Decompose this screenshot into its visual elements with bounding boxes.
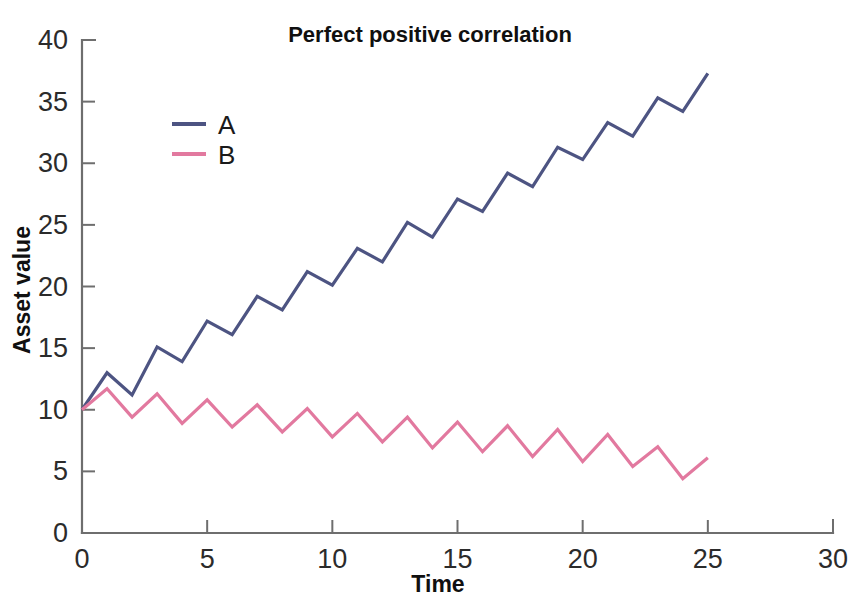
y-tick-label: 30 <box>38 148 68 178</box>
y-tick-label: 5 <box>53 456 68 486</box>
x-tick-label: 30 <box>818 544 848 574</box>
chart-title: Perfect positive correlation <box>288 22 572 47</box>
line-chart: 0510152025303540 051015202530 Perfect po… <box>0 0 850 600</box>
y-tick-label: 40 <box>38 25 68 55</box>
legend-label-a: A <box>218 110 236 140</box>
y-tick-label: 25 <box>38 210 68 240</box>
chart-background <box>0 0 850 600</box>
y-tick-label: 35 <box>38 87 68 117</box>
y-tick-label: 0 <box>53 518 68 548</box>
x-tick-label: 10 <box>317 544 347 574</box>
legend-label-b: B <box>218 140 235 170</box>
y-axis-title: Asset value <box>9 226 35 354</box>
y-tick-label: 15 <box>38 333 68 363</box>
chart-container: 0510152025303540 051015202530 Perfect po… <box>0 0 850 600</box>
x-tick-label: 5 <box>200 544 215 574</box>
y-tick-label: 10 <box>38 395 68 425</box>
y-tick-label: 20 <box>38 272 68 302</box>
x-tick-label: 20 <box>568 544 598 574</box>
x-tick-label: 15 <box>442 544 472 574</box>
x-axis-title: Time <box>411 571 464 597</box>
x-tick-label: 25 <box>693 544 723 574</box>
x-tick-label: 0 <box>74 544 89 574</box>
